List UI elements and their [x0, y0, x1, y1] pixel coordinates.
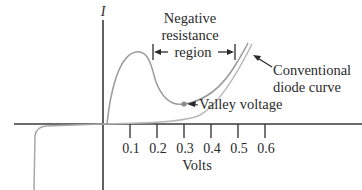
- x-tick-label: 0.3: [176, 142, 194, 156]
- conventional-curve-label-line-1: Conventional: [273, 63, 351, 78]
- valley-voltage-label: Valley voltage: [199, 97, 282, 112]
- x-tick-label: 0.4: [203, 142, 221, 156]
- x-axis-ticks: [130, 124, 265, 138]
- reverse-bias-curve: [34, 124, 103, 190]
- right-arrow-icon: [227, 49, 234, 55]
- x-tick-label: 0.1: [122, 142, 140, 156]
- x-axis-label: Volts: [182, 158, 212, 173]
- negative-resistance-label-line-2: resistance: [161, 28, 218, 43]
- conventional-curve-label-line-2: diode curve: [273, 80, 341, 95]
- left-arrow-icon: [154, 49, 161, 55]
- conventional-curve-arrow-icon: [253, 55, 261, 61]
- negative-resistance-label-line-1: Negative: [164, 11, 216, 26]
- x-tick-label: 0.5: [230, 142, 248, 156]
- y-axis-label: I: [101, 5, 106, 19]
- x-tick-label: 0.6: [257, 142, 275, 156]
- negative-resistance-label-line-3: region: [174, 45, 211, 60]
- valley-point: [181, 101, 186, 106]
- tunnel-diode-diagram: I Negative resistance region Conventiona…: [0, 0, 362, 190]
- x-tick-label: 0.2: [149, 142, 167, 156]
